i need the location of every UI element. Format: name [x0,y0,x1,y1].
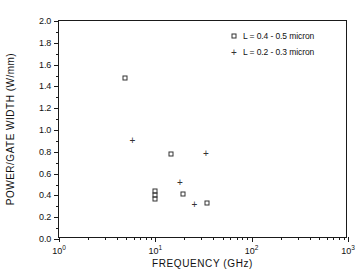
y-axis-tick-label: 1.8 [39,38,51,48]
data-point-series-2 [202,149,209,156]
y-axis-minor-tick [56,185,59,186]
x-axis-minor-tick [281,237,282,240]
x-axis-minor-tick [151,237,152,240]
data-point-series-1 [204,201,209,206]
x-axis-tick [252,237,253,242]
y-axis-tick-label: 0.4 [39,190,51,200]
legend-marker-glyph [231,49,238,56]
data-point-series-1 [153,197,158,202]
y-axis-minor-tick [56,32,59,33]
data-point-series-2 [176,178,183,185]
x-axis-minor-tick [344,237,345,240]
x-axis-tick-label: 102 [245,244,259,256]
x-axis-minor-tick [140,237,141,240]
data-point-series-1 [181,192,186,197]
legend-entry: L = 0.4 - 0.5 micron [228,28,314,44]
x-axis-minor-tick [298,237,299,240]
y-axis-tick-label: 2.0 [39,16,51,26]
x-axis-minor-tick [247,237,248,240]
y-axis-minor-tick [56,163,59,164]
legend-square-icon [228,31,240,41]
x-axis-minor-tick [237,237,238,240]
y-axis-tick-label: 0.8 [39,147,51,157]
data-point-series-2 [191,200,198,207]
x-axis-minor-tick [134,237,135,240]
x-axis-minor-tick [327,237,328,240]
legend-plus-icon [228,47,240,57]
y-axis-tick [54,195,59,196]
y-axis-tick [54,43,59,44]
x-axis-tick-label: 103 [341,244,355,256]
x-axis-minor-tick [339,237,340,240]
data-point-series-1 [168,151,173,156]
y-axis-tick [54,86,59,87]
x-axis-minor-tick [230,237,231,240]
x-axis-title: FREQUENCY (GHz) [58,258,347,269]
y-axis-tick [54,152,59,153]
x-axis-minor-tick [184,237,185,240]
chart-legend: L = 0.4 - 0.5 micronL = 0.2 - 0.3 micron [228,28,314,60]
legend-entry: L = 0.2 - 0.3 micron [228,44,314,60]
y-axis-tick-label: 1.6 [39,60,51,70]
x-axis-minor-tick [126,237,127,240]
y-axis-minor-tick [56,141,59,142]
legend-entry-label: L = 0.4 - 0.5 micron [243,31,314,41]
x-axis-tick-label: 101 [149,244,163,256]
y-axis-tick-label: 0.6 [39,169,51,179]
y-axis-tick-label: 1.0 [39,125,51,135]
legend-entry-label: L = 0.2 - 0.3 micron [243,47,314,57]
x-axis-minor-tick [88,237,89,240]
y-axis-tick [54,174,59,175]
x-axis-tick-label: 100 [52,244,66,256]
chart-figure: POWER/GATE WIDTH (W/mm) 0.00.20.40.60.81… [0,0,358,279]
x-axis-minor-tick [117,237,118,240]
x-axis-minor-tick [223,237,224,240]
y-axis-title-wrapper: POWER/GATE WIDTH (W/mm) [14,0,15,279]
x-axis-minor-tick [319,237,320,240]
y-axis-minor-tick [56,76,59,77]
x-axis-tick [59,237,60,242]
x-axis-tick [348,237,349,242]
y-axis-minor-tick [56,119,59,120]
y-axis-tick [54,217,59,218]
x-axis-tick [155,237,156,242]
x-axis-minor-tick [213,237,214,240]
data-point-series-1 [123,75,128,80]
x-axis-minor-tick [105,237,106,240]
y-axis-tick-label: 0.0 [39,234,51,244]
y-axis-tick [54,130,59,131]
y-axis-minor-tick [56,228,59,229]
y-axis-minor-tick [56,97,59,98]
y-axis-tick [54,65,59,66]
x-axis-minor-tick [310,237,311,240]
y-axis-title: POWER/GATE WIDTH (W/mm) [5,53,16,205]
y-axis-tick-label: 1.2 [39,103,51,113]
x-axis-minor-tick [333,237,334,240]
y-axis-minor-tick [56,206,59,207]
y-axis-tick [54,21,59,22]
x-axis-minor-tick [146,237,147,240]
legend-marker-glyph [232,34,237,39]
x-axis-minor-tick [242,237,243,240]
data-point-series-2 [129,136,136,143]
y-axis-tick-label: 0.2 [39,212,51,222]
y-axis-tick-label: 1.4 [39,81,51,91]
y-axis-minor-tick [56,54,59,55]
x-axis-minor-tick [201,237,202,240]
y-axis-tick [54,108,59,109]
